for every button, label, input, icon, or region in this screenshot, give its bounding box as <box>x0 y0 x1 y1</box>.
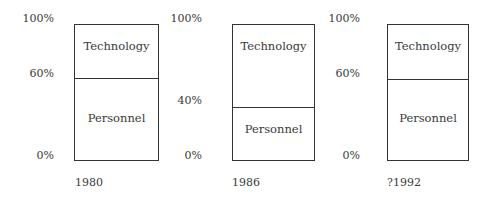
y-tick-100: 100% <box>162 13 202 25</box>
stacked-bar: Technology Personnel <box>387 24 469 161</box>
panel-1980: 100% 60% 0% Technology Personnel 1980 <box>0 0 165 198</box>
stacked-bar: Technology Personnel <box>232 24 315 161</box>
stacked-bar: Technology Personnel <box>74 24 159 161</box>
segment-label-personnel: Personnel <box>75 112 158 125</box>
segment-divider <box>75 78 158 79</box>
segment-label-technology: Technology <box>233 40 314 53</box>
year-label: ?1992 <box>387 177 421 189</box>
y-tick-0: 0% <box>320 150 360 162</box>
y-tick-0: 0% <box>162 150 202 162</box>
segment-divider <box>388 79 468 80</box>
y-tick-100: 100% <box>14 13 54 25</box>
y-tick-0: 0% <box>14 150 54 162</box>
segment-label-personnel: Personnel <box>388 112 468 125</box>
segment-label-technology: Technology <box>388 40 468 53</box>
y-tick-mid: 60% <box>320 68 360 80</box>
year-label: 1986 <box>232 177 260 189</box>
segment-label-personnel: Personnel <box>233 123 314 136</box>
y-tick-100: 100% <box>320 13 360 25</box>
panel-1992: 100% 60% 0% Technology Personnel ?1992 <box>330 0 493 198</box>
y-tick-mid: 40% <box>162 95 202 107</box>
panel-1986: 100% 40% 0% Technology Personnel 1986 <box>165 0 330 198</box>
y-tick-mid: 60% <box>14 68 54 80</box>
year-label: 1980 <box>75 177 103 189</box>
segment-label-technology: Technology <box>75 40 158 53</box>
segment-divider <box>233 107 314 108</box>
